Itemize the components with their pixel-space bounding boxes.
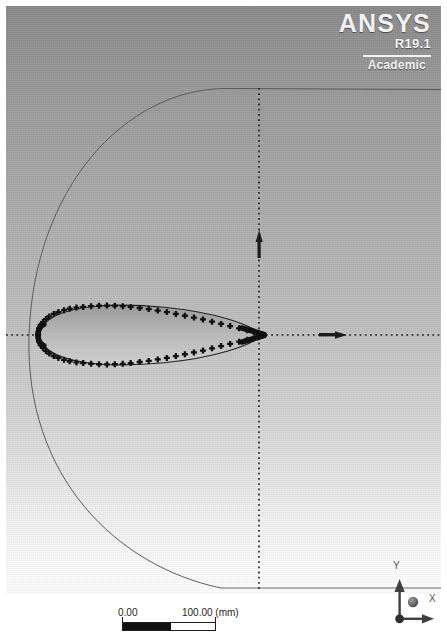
triad-z-axis-dot	[395, 614, 404, 623]
axis-triad[interactable]: Y X	[385, 560, 443, 630]
triad-rotation-ball[interactable]	[408, 597, 418, 607]
airfoil-point-marker	[41, 343, 47, 349]
scale-bar-labels: 0.00 100.00 (mm)	[118, 606, 298, 619]
geometry-canvas	[6, 6, 441, 594]
triad-x-label: X	[429, 593, 436, 604]
airfoil-profile[interactable]	[35, 303, 267, 368]
scale-bar-fill	[123, 623, 171, 630]
graphics-viewport[interactable]: ANSYS R19.1 Academic	[6, 6, 441, 594]
scale-bar: 0.00 100.00 (mm)	[118, 606, 298, 636]
ansys-license-badge: Academic	[363, 55, 431, 74]
triad-y-axis-arrow	[395, 579, 405, 619]
vertical-axis-direction-arrow	[256, 230, 263, 258]
triad-x-axis-arrow	[399, 614, 434, 623]
triad-y-label: Y	[393, 560, 400, 571]
ansys-brand-text: ANSYS	[339, 10, 431, 36]
scale-bar-min-label: 0.00	[118, 606, 137, 619]
airfoil-surface-fill	[38, 305, 264, 365]
horizontal-axis-direction-arrow	[319, 331, 347, 339]
ansys-release-text: R19.1	[339, 37, 431, 52]
ansys-graphics-window: ANSYS R19.1 Academic 0.00 100.00 (mm)	[0, 0, 447, 639]
scale-bar-track	[122, 622, 216, 631]
scale-bar-max-label: 100.00 (mm)	[182, 606, 239, 619]
ansys-logo: ANSYS R19.1 Academic	[339, 10, 431, 74]
domain-top-edge	[224, 89, 441, 90]
airfoil-point-marker	[261, 333, 266, 338]
